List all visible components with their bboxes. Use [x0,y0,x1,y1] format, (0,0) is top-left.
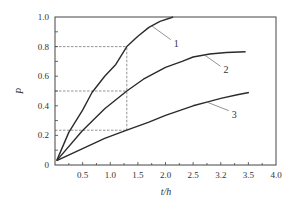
y-tick-label: 0.2 [38,130,49,140]
x-tick-label: 2.5 [188,170,200,180]
y-tick-label: 0.8 [38,42,50,52]
curve-3 [57,93,249,161]
leader-line-3 [207,102,229,111]
y-tick-label: 0 [45,160,50,170]
curve-1 [57,17,174,161]
x-tick-label: 4.0 [270,170,282,180]
y-tick-label: 0.6 [38,71,50,81]
x-tick-label: 1.5 [132,170,144,180]
x-tick-label: 2.0 [160,170,172,180]
dashed-guides [55,47,127,131]
x-tick-label: 1.0 [105,170,117,180]
y-axis-title: P [14,88,25,95]
curve-label-3: 3 [232,109,237,120]
leader-line-2 [204,55,220,67]
curve-label-1: 1 [174,38,179,49]
x-tick-label: 3.2 [215,170,226,180]
y-tick-label: 0.4 [38,101,50,111]
curve-label-2: 2 [224,64,229,75]
leader-line-1 [152,26,171,40]
curves [57,17,249,161]
x-tick-label: 3.5 [243,170,255,180]
y-tick-labels: 00.20.40.60.81.0 [38,12,50,170]
x-axis-title: t/h [161,186,172,197]
x-tick-label: 0.5 [77,170,89,180]
y-tick-label: 1.0 [38,12,50,22]
line-chart: 123 0.51.01.52.02.53.23.54.0 00.20.40.60… [0,0,297,204]
x-tick-labels: 0.51.01.52.02.53.23.54.0 [77,170,282,180]
